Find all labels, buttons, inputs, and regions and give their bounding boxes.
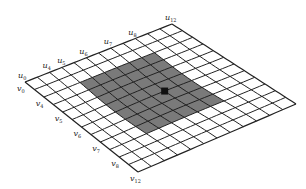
axis-label: v12 bbox=[130, 174, 141, 184]
axis-label: v5 bbox=[55, 114, 63, 124]
axis-label: u0 bbox=[18, 71, 26, 81]
axis-label: u12 bbox=[165, 13, 177, 23]
axis-label: v0 bbox=[17, 84, 25, 94]
surface-grid-diagram: u0u4u5u6u7u8u12 v0v4v5v6v7v8v12 bbox=[0, 0, 306, 189]
axis-label: v7 bbox=[92, 144, 100, 154]
axis-label: u6 bbox=[79, 47, 87, 57]
axis-label: v4 bbox=[36, 99, 44, 109]
axis-label: u7 bbox=[104, 37, 112, 47]
axis-label: u8 bbox=[128, 28, 136, 38]
point-marker bbox=[161, 88, 168, 95]
axis-label: v8 bbox=[111, 159, 119, 169]
axis-label: v6 bbox=[74, 129, 82, 139]
axis-label: u5 bbox=[57, 56, 65, 66]
axis-label: u4 bbox=[43, 61, 51, 71]
marker-square bbox=[161, 88, 168, 95]
